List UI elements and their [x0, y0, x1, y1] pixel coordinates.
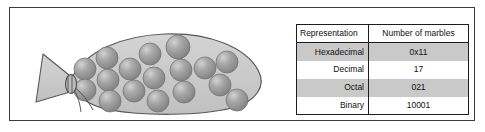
table-row: Octal 021 [297, 79, 469, 97]
cell-value: 021 [369, 79, 469, 97]
table-header-row: Representation Number of marbles [297, 25, 469, 43]
marble [123, 80, 145, 102]
marble [166, 35, 190, 59]
marble [97, 69, 119, 91]
marble [74, 58, 96, 80]
marble [99, 90, 121, 112]
cell-value: 17 [369, 61, 469, 79]
table-row: Binary 10001 [297, 97, 469, 115]
header-number-of-marbles: Number of marbles [369, 25, 469, 43]
figure-frame: Representation Number of marbles Hexadec… [9, 7, 475, 121]
marble [226, 89, 248, 111]
marble [96, 47, 118, 69]
cell-representation: Decimal [297, 61, 369, 79]
bag-of-marbles-illustration [24, 22, 288, 122]
cell-value: 0x11 [369, 43, 469, 61]
bag-neck [36, 54, 70, 102]
table-row: Decimal 17 [297, 61, 469, 79]
marble [147, 90, 169, 112]
cell-representation: Binary [297, 97, 369, 115]
marble [209, 74, 231, 96]
table-row: Hexadecimal 0x11 [297, 43, 469, 61]
marble [139, 43, 161, 65]
marble [170, 59, 192, 81]
marble [216, 51, 238, 73]
header-representation: Representation [297, 25, 369, 43]
marble [173, 81, 195, 103]
cell-value: 10001 [369, 97, 469, 115]
number-representation-table: Representation Number of marbles Hexadec… [296, 24, 469, 115]
figure-container: Representation Number of marbles Hexadec… [0, 0, 485, 132]
marble [119, 58, 141, 80]
marble [194, 57, 216, 79]
marble [143, 67, 165, 89]
cell-representation: Hexadecimal [297, 43, 369, 61]
cell-representation: Octal [297, 79, 369, 97]
